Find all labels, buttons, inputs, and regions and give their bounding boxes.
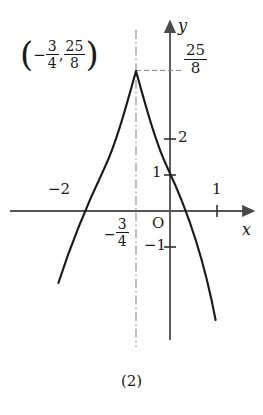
vertex-x-fraction: 34 [46, 39, 59, 70]
vertex-x-minus: − [33, 48, 46, 63]
x-axis-3-4-minus: − [104, 227, 116, 241]
vertex-close-paren: ) [85, 41, 98, 69]
y-axis-25-8-denominator: 8 [184, 60, 207, 76]
y-axis-name: y [178, 18, 187, 34]
vertex-y-fraction: 258 [64, 39, 86, 70]
origin-label: O [152, 216, 164, 231]
x-axis-name: x [242, 222, 251, 238]
figure-caption: (2) [0, 372, 263, 390]
parabola-curve [58, 71, 215, 320]
y-axis-label-2: 2 [178, 130, 188, 145]
vertex-open-paren: ( [20, 41, 33, 69]
x-axis-label-1: 1 [212, 182, 222, 197]
vertex-x-numerator: 3 [46, 39, 59, 55]
parabola-figure: (−34,258) 258 2 1 −1 −2 1 −34 y x O (2) [0, 0, 263, 415]
vertex-y-denominator: 8 [64, 55, 86, 70]
y-axis-25-8-numerator: 25 [184, 43, 207, 60]
y-axis-label-1: 1 [152, 165, 162, 180]
vertex-y-numerator: 25 [64, 39, 86, 55]
x-axis-3-4-numerator: 3 [116, 217, 129, 233]
x-axis-label-negative-2: −2 [48, 182, 70, 197]
y-axis-label-25-8: 258 [184, 44, 207, 77]
vertex-x-denominator: 4 [46, 55, 59, 70]
x-axis-3-4-denominator: 4 [116, 233, 129, 248]
y-axis-fraction-25-8: 258 [184, 43, 207, 76]
y-axis-label-negative-1: −1 [144, 238, 166, 253]
x-axis-label-negative-3-4: −34 [104, 218, 129, 249]
vertex-coordinate-label: (−34,258) [20, 40, 99, 71]
x-axis-fraction-3-4: 34 [116, 217, 129, 248]
